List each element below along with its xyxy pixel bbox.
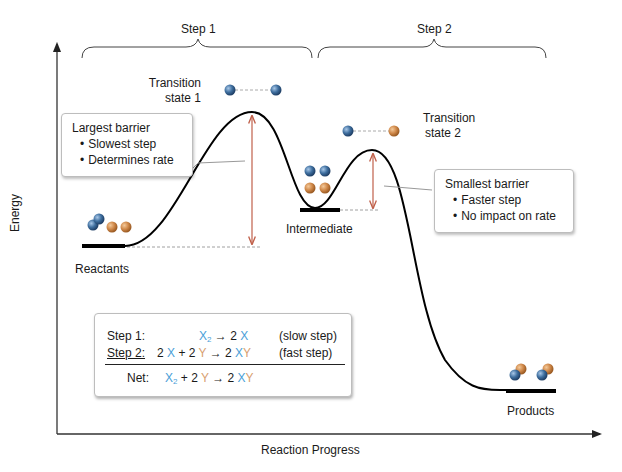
transition-state-1-molecule-icon (225, 85, 282, 96)
transition-state-2-line2: state 2 (423, 126, 475, 141)
species-x: X (199, 329, 207, 343)
reactants-label: Reactants (75, 262, 129, 277)
equation-label: Step 2: (107, 345, 145, 361)
species-x: X (238, 371, 246, 385)
coefficient: 2 (189, 346, 196, 360)
reaction-arrow: → (215, 329, 227, 343)
transition-state-1-line2: state 1 (146, 91, 201, 106)
coefficient: 2 (227, 371, 234, 385)
smallest-barrier-bullet: Faster step (453, 192, 563, 208)
plus-sign: + (181, 371, 188, 385)
equation-divider (105, 364, 345, 365)
intermediate-molecules-icon (305, 166, 331, 194)
reactants-level (82, 244, 125, 248)
transition-state-2-label: Transition state 2 (423, 111, 475, 141)
reaction-arrow: → (212, 371, 224, 385)
x-axis-label: Reaction Progress (261, 443, 360, 458)
transition-state-2-line1: Transition (423, 111, 475, 126)
largest-barrier-bullet: Slowest step (80, 136, 182, 152)
products-level (506, 389, 556, 393)
reactant-molecules-icon (88, 214, 132, 233)
step-2-brace (318, 39, 546, 58)
largest-barrier-callout: Largest barrier Slowest step Determines … (61, 113, 193, 177)
subscript: 2 (207, 335, 211, 344)
smallest-barrier-callout: Smallest barrier Faster step No impact o… (434, 169, 574, 233)
transition-state-2-molecule-icon (343, 126, 400, 137)
equation-body: 2 X + 2 Y → 2 XY (157, 345, 251, 361)
largest-barrier-bullet: Determines rate (80, 152, 182, 168)
species-x: X (235, 346, 243, 360)
species-y: Y (243, 346, 251, 360)
coefficient: 2 (225, 346, 232, 360)
equation-label: Step 1: (107, 328, 145, 344)
step-1-brace (82, 39, 312, 58)
largest-barrier-title: Largest barrier (72, 120, 182, 136)
species-y: Y (199, 346, 207, 360)
subscript: 2 (173, 377, 177, 386)
species-y: Y (246, 371, 254, 385)
species-y: Y (201, 371, 209, 385)
coefficient: 2 (191, 371, 198, 385)
equation-note: (slow step) (279, 328, 337, 344)
products-label: Products (507, 404, 554, 419)
smallest-barrier-bullet: No impact on rate (453, 208, 563, 224)
intermediate-label: Intermediate (286, 222, 353, 237)
smallest-barrier-title: Smallest barrier (445, 176, 563, 192)
equation-label: Net: (127, 370, 149, 386)
coefficient: 2 (157, 346, 164, 360)
plus-sign: + (178, 346, 185, 360)
reaction-arrow: → (210, 346, 222, 360)
step-2-label: Step 2 (417, 22, 452, 37)
step-1-label: Step 1 (181, 22, 216, 37)
transition-state-1-label: Transition state 1 (146, 76, 201, 106)
species-x: X (167, 346, 175, 360)
equation-body: X2 + 2 Y → 2 XY (165, 370, 254, 390)
intermediate-level (300, 208, 340, 212)
species-x: X (240, 329, 248, 343)
equation-note: (fast step) (279, 345, 332, 361)
transition-state-1-line1: Transition (146, 76, 201, 91)
product-molecules-icon (510, 364, 554, 381)
mechanism-equations-box: Step 1: X2 → 2 X (slow step) Step 2: 2 X… (94, 313, 352, 397)
y-axis-label: Energy (8, 194, 23, 232)
coefficient: 2 (230, 329, 237, 343)
species-x: X (165, 371, 173, 385)
